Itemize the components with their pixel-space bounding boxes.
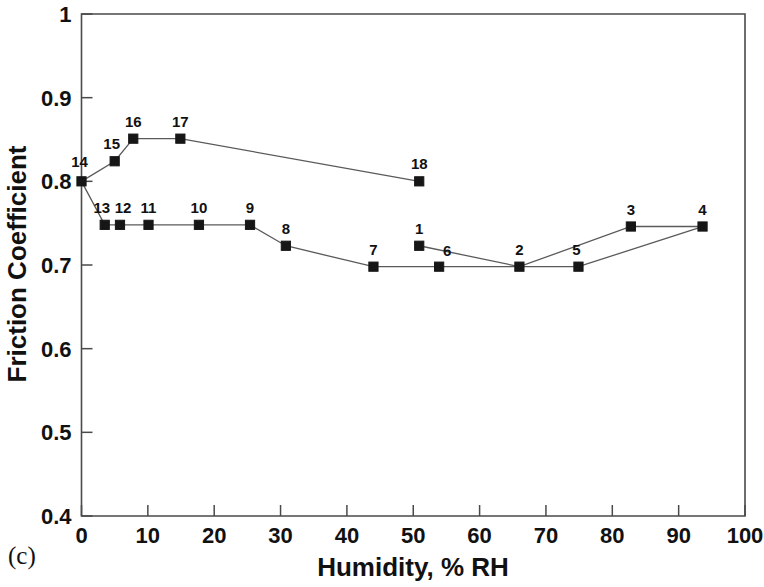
y-tick-label: 0.8 [41,169,72,194]
data-point-marker [115,220,124,229]
point-label-10: 10 [191,199,208,216]
data-point-marker [77,177,86,186]
point-label-3: 3 [627,201,635,218]
series-lower-branch [82,181,703,266]
point-label-14: 14 [71,153,88,170]
point-label-17: 17 [172,113,189,130]
axes [82,14,746,516]
data-series [82,139,703,267]
data-point-marker [100,220,109,229]
x-tick-label: 100 [727,523,764,548]
data-point-marker [415,241,424,250]
data-point-marker [515,262,524,271]
data-point-marker [129,134,138,143]
point-label-4: 4 [698,201,707,218]
point-label-12: 12 [115,199,132,216]
point-label-9: 9 [246,199,254,216]
data-point-marker [110,157,119,166]
x-tick-label: 10 [136,523,160,548]
x-tick-label: 40 [335,523,359,548]
point-labels: 123456789101112131415161718 [71,113,707,259]
point-label-15: 15 [103,135,120,152]
x-tick-label: 30 [268,523,292,548]
y-tick-label: 0.6 [41,337,72,362]
series-mid-connector [419,227,702,267]
data-point-marker [415,177,424,186]
y-tick-label: 0.7 [41,253,72,278]
y-tick-label: 1 [59,2,71,27]
figure-panel-c: 123456789101112131415161718 010203040506… [0,0,764,587]
data-point-marker [281,241,290,250]
data-point-marker [245,220,254,229]
x-tick-label: 80 [600,523,624,548]
x-tick-label: 50 [401,523,425,548]
point-label-2: 2 [515,241,523,258]
x-tick-label: 70 [534,523,558,548]
x-tick-label: 90 [666,523,690,548]
data-point-marker [194,220,203,229]
x-tick-label: 0 [75,523,87,548]
data-point-marker [144,220,153,229]
point-label-8: 8 [282,220,290,237]
plot-frame [82,14,746,516]
x-tick-label: 60 [467,523,491,548]
panel-label: (c) [8,542,36,570]
point-label-5: 5 [572,241,580,258]
chart-canvas: 123456789101112131415161718 010203040506… [0,0,764,587]
point-label-18: 18 [411,155,428,172]
y-tick-label: 0.9 [41,86,72,111]
point-label-6: 6 [443,242,451,259]
point-label-11: 11 [141,199,157,216]
point-label-7: 7 [369,241,377,258]
y-tick-label: 0.5 [41,420,72,445]
y-axis-title: Friction Coefficient [2,145,32,382]
tick-labels: 01020304050607080901000.40.50.60.70.80.9… [41,2,763,548]
data-point-marker [698,222,707,231]
point-label-13: 13 [93,199,110,216]
data-markers [77,134,707,271]
x-tick-label: 20 [202,523,226,548]
x-axis-title: Humidity, % RH [317,552,509,582]
series-upper-branch [82,139,420,182]
data-point-marker [574,262,583,271]
y-tick-label: 0.4 [41,504,72,529]
data-point-marker [176,134,185,143]
data-point-marker [435,262,444,271]
point-label-16: 16 [125,113,142,130]
data-point-marker [626,222,635,231]
point-label-1: 1 [415,220,423,237]
data-point-marker [369,262,378,271]
